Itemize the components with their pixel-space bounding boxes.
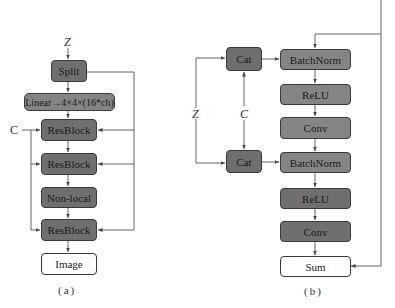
conv-node-1: Conv — [280, 117, 351, 139]
input-z-label-b: Z — [192, 108, 199, 120]
resblock-node-2: ResBlock — [41, 153, 97, 175]
input-c-label-b: C — [240, 108, 248, 120]
caption-a: (a) — [58, 284, 76, 296]
sum-output-node: Sum — [280, 256, 351, 277]
cat-node-1: Cat — [226, 47, 262, 71]
resblock-node-1: ResBlock — [41, 119, 97, 141]
batchnorm-node-1: BatchNorm — [280, 49, 351, 70]
relu-node-1: ReLU — [280, 84, 351, 105]
split-node: Split — [51, 60, 87, 82]
relu-node-2: ReLU — [280, 188, 351, 209]
conv-node-2: Conv — [280, 221, 351, 242]
batchnorm-node-2: BatchNorm — [280, 152, 351, 173]
nonlocal-node: Non-local — [41, 187, 97, 208]
cat-node-2: Cat — [226, 150, 262, 173]
resblock-node-3: ResBlock — [41, 219, 97, 241]
input-z-label: Z — [64, 36, 71, 48]
linear-node: Linear→4×4×(16*ch) — [24, 93, 115, 111]
caption-b: (b) — [304, 285, 323, 297]
input-c-label: C — [10, 124, 18, 136]
image-output-node: Image — [41, 253, 97, 275]
